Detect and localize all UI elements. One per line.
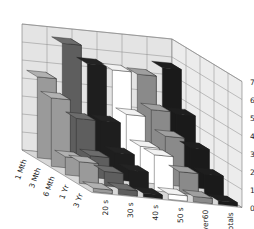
x-axis-label: 50 s (176, 207, 185, 223)
y-tick-label: 10% (250, 186, 254, 195)
y-axis-ticks: 0%10%20%30%40%50%60%70% (250, 78, 254, 213)
y-tick-label: 40% (250, 132, 254, 141)
y-tick-label: 60% (250, 96, 254, 105)
depth-axis-label: 1 Mth (13, 158, 29, 181)
x-axis-label: 40 s (151, 205, 160, 221)
x-axis-label: Totals (226, 212, 235, 229)
depth-axis-label: 3 Yr (71, 191, 85, 209)
y-tick-label: 0% (250, 204, 254, 213)
x-axis-label: Over60 (201, 210, 210, 229)
3d-bar-chart: 0%10%20%30%40%50%60%70% 20 s30 s40 s50 s… (0, 0, 254, 229)
depth-axis-label: 3 Mth (27, 166, 43, 189)
y-tick-label: 30% (250, 150, 254, 159)
depth-axis-label: 6 Mth (41, 175, 57, 198)
y-tick-label: 20% (250, 168, 254, 177)
x-axis-label: 20 s (101, 200, 110, 216)
x-axis-label: 30 s (126, 202, 135, 218)
y-tick-label: 70% (250, 78, 254, 87)
y-tick-label: 50% (250, 114, 254, 123)
depth-axis-label: 1 Yr (57, 183, 71, 201)
